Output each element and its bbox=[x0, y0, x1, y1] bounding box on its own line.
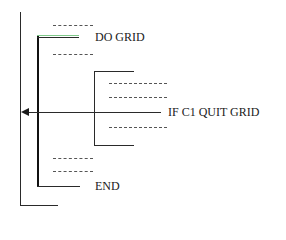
loop-start-label: DO GRID bbox=[95, 31, 145, 43]
exit-condition-label: IF C1 QUIT GRID bbox=[168, 106, 259, 118]
inner-block-line bbox=[94, 71, 95, 146]
outer-block-bottom bbox=[20, 205, 58, 206]
statement-dash bbox=[53, 171, 93, 172]
inner-statement-dash bbox=[109, 127, 167, 128]
statement-dash bbox=[53, 54, 93, 55]
loop-end-label: END bbox=[95, 180, 120, 192]
statement-dash bbox=[53, 158, 93, 159]
loop-end-line bbox=[37, 186, 80, 187]
inner-block-top bbox=[94, 71, 134, 72]
statement-dash bbox=[53, 25, 93, 26]
arrow-left-icon bbox=[21, 108, 29, 116]
inner-statement-dash bbox=[109, 83, 167, 84]
inner-statement-dash bbox=[109, 97, 167, 98]
exit-line bbox=[28, 112, 161, 113]
loop-start-line bbox=[37, 35, 79, 36]
loop-start-line-dark bbox=[37, 37, 79, 38]
inner-block-bottom bbox=[94, 145, 134, 146]
